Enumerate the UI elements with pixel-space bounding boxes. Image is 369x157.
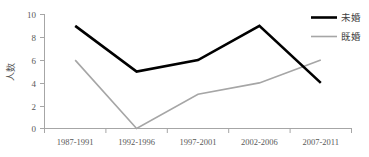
y-tick-label-10: 10 [27,10,37,20]
x-tick-label-4: 2002-2006 [241,137,278,147]
legend-label-unmarried: 未婚 [341,12,361,23]
chart-canvas: 10 8 6 4 2 0 人数 1987-1991 1992-1996 1997… [0,0,369,157]
x-tick-label-3: 1997-2001 [180,137,217,147]
chart-background [0,0,369,157]
y-tick-label-6: 6 [32,56,37,66]
y-tick-label-2: 2 [32,102,37,112]
x-tick-label-5: 2007-2011 [303,137,340,147]
y-tick-label-0: 0 [32,124,37,134]
y-tick-label-8: 8 [32,33,37,43]
x-tick-label-2: 1992-1996 [118,137,155,147]
y-tick-label-4: 4 [32,79,37,89]
x-tick-label-1: 1987-1991 [57,137,94,147]
y-axis-title: 人数 [5,63,16,81]
legend-label-married: 既婚 [341,31,361,42]
line-chart: 10 8 6 4 2 0 人数 1987-1991 1992-1996 1997… [0,0,369,157]
